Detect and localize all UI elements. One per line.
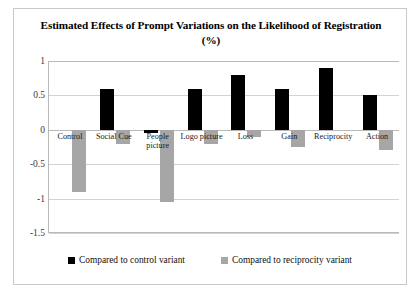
bar[interactable] xyxy=(291,130,305,147)
legend-item[interactable]: Compared to control variant xyxy=(68,255,185,265)
legend-swatch-icon xyxy=(68,257,75,264)
bar[interactable] xyxy=(144,130,158,133)
y-tick-label: 0.5 xyxy=(33,90,45,100)
legend-label: Compared to control variant xyxy=(79,255,185,265)
bar[interactable] xyxy=(247,130,261,137)
bar[interactable] xyxy=(72,130,86,192)
bars-layer xyxy=(49,61,399,232)
bar[interactable] xyxy=(100,89,114,130)
bar[interactable] xyxy=(116,130,130,144)
chart-title: Estimated Effects of Prompt Variations o… xyxy=(38,18,384,48)
bar-group xyxy=(225,61,269,232)
bar[interactable] xyxy=(363,95,377,129)
chart-frame: Estimated Effects of Prompt Variations o… xyxy=(13,8,407,285)
bar[interactable] xyxy=(188,89,202,130)
legend-item[interactable]: Compared to reciprocity variant xyxy=(221,255,352,265)
bar-group xyxy=(137,61,181,232)
y-tick-label: -1 xyxy=(37,194,45,204)
bar-group xyxy=(312,61,356,232)
bar-group xyxy=(181,61,225,232)
y-tick-label: -1.5 xyxy=(30,228,45,238)
bar-group xyxy=(93,61,137,232)
bar[interactable] xyxy=(204,130,218,144)
bar[interactable] xyxy=(275,89,289,130)
bar-group xyxy=(268,61,312,232)
gridline--1.5 xyxy=(49,233,399,234)
bar[interactable] xyxy=(160,130,174,202)
legend-swatch-icon xyxy=(221,257,228,264)
bar[interactable] xyxy=(379,130,393,151)
bar[interactable] xyxy=(231,75,245,130)
y-tick-label: -0.5 xyxy=(30,159,45,169)
bar[interactable] xyxy=(319,68,333,130)
y-tick-label: 1 xyxy=(40,56,45,66)
chart-legend: Compared to control variantCompared to r… xyxy=(14,255,406,265)
legend-label: Compared to reciprocity variant xyxy=(232,255,352,265)
bar-group xyxy=(356,61,400,232)
bar-group xyxy=(49,61,93,232)
plot-area: 10.50-0.5-1-1.5 xyxy=(48,61,399,233)
y-tick-label: 0 xyxy=(40,125,45,135)
